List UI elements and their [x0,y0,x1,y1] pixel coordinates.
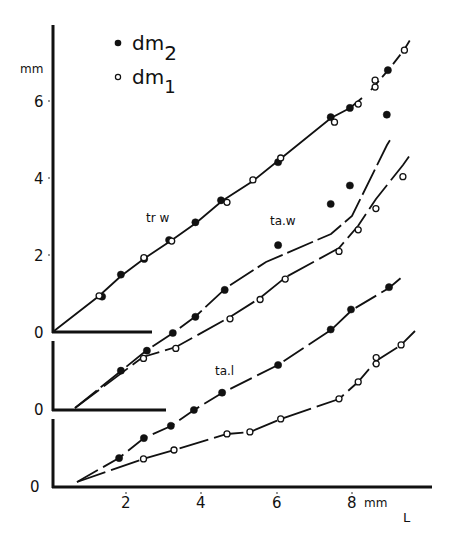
y-unit-label: mm [20,62,43,76]
data-point-ta-l-dm2 [140,435,147,442]
fit-line-ta-l-dm1 [77,331,415,482]
data-point-ta-l-dm2 [327,326,334,333]
data-point-ta-l-dm2 [275,361,282,368]
data-point-ta-w-dm1 [282,276,288,282]
data-point-ta-l-dm1 [373,361,379,367]
tick-labels: mm 6 4 2 0 0 0 2 4 6 8 mm L [20,62,411,525]
legend-dm1-label: dm1 [132,65,176,97]
data-point-tr-w-dm1 [278,155,284,161]
data-point-ta-w-dm2 [221,286,228,293]
y-tick-2: 2 [34,247,44,265]
x-axis-name: L [403,510,411,525]
x-tick-8: 8 [347,494,357,512]
x-tick-4: 4 [196,494,206,512]
data-point-ta-l-dm2 [116,455,123,462]
data-point-ta-l-dm1 [247,429,253,435]
data-point-ta-w-dm2 [346,182,353,189]
fit-line-ta-w-dm1 [75,155,410,408]
panel-label-ta-l: ta.l [215,364,234,378]
y-tick-0-bot: 0 [30,478,40,496]
legend: dm2 dm1 [115,31,177,97]
data-point-ta-l-dm1 [398,342,404,348]
ticks [48,100,353,494]
data-point-tr-w-dm1 [332,119,338,125]
data-point-ta-w-dm1 [173,345,179,351]
data-point-tr-w-dm1 [372,77,378,83]
data-point-ta-w-dm1 [257,297,263,303]
data-point-ta-l-dm2 [219,389,226,396]
x-tick-6: 6 [272,494,282,512]
data-point-ta-l-dm2 [190,406,197,413]
data-point-ta-w-dm2 [143,347,150,354]
legend-open-marker-icon [115,74,120,79]
data-point-ta-w-dm2 [275,242,282,249]
data-point-tr-w-dm2 [117,271,124,278]
data-point-ta-w-dm1 [355,227,361,233]
legend-dm2-label: dm2 [132,31,177,65]
data-point-tr-w-dm2 [346,104,353,111]
data-point-ta-l-dm2 [347,306,354,313]
data-markers [96,47,407,462]
data-point-ta-l-dm2 [385,284,392,291]
data-point-ta-w-dm2 [192,313,199,320]
panel-label-tr-w: tr w [146,211,169,225]
y-tick-0-top: 0 [34,324,44,342]
data-point-tr-w-dm1 [372,84,378,90]
data-point-ta-l-dm1 [336,396,342,402]
data-point-ta-l-dm1 [355,379,361,385]
y-tick-4: 4 [34,170,44,188]
data-point-ta-l-dm2 [167,422,174,429]
data-point-ta-w-dm2 [169,329,176,336]
data-point-tr-w-dm2 [384,67,391,74]
data-point-tr-w-dm1 [224,199,230,205]
panel-label-ta-w: ta.w [270,214,296,228]
data-point-ta-w-dm2 [383,111,390,118]
data-point-ta-l-dm1 [171,447,177,453]
data-point-tr-w-dm1 [250,177,256,183]
data-point-tr-w-dm1 [169,238,175,244]
data-point-ta-w-dm1 [400,174,406,180]
data-point-tr-w-dm1 [401,47,407,53]
data-point-ta-w-dm2 [327,200,334,207]
x-tick-2: 2 [121,494,131,512]
data-point-ta-w-dm1 [141,355,147,361]
y-tick-6: 6 [34,93,44,111]
data-point-ta-w-dm1 [227,316,233,322]
data-point-tr-w-dm1 [355,101,361,107]
data-point-ta-w-dm2 [117,367,124,374]
data-point-ta-l-dm1 [278,416,284,422]
y-tick-0-mid: 0 [34,401,44,419]
data-point-ta-l-dm1 [224,431,230,437]
data-point-tr-w-dm2 [192,219,199,226]
data-point-ta-w-dm1 [373,206,379,212]
chart-canvas: dm2 dm1 mm 6 4 2 0 0 0 2 4 6 8 mm [0,0,449,546]
data-point-tr-w-dm1 [96,293,102,299]
x-unit-label: mm [364,496,387,510]
data-point-ta-l-dm1 [373,355,379,361]
legend-filled-marker-icon [115,40,122,47]
data-point-ta-l-dm1 [141,456,147,462]
axes [52,25,432,488]
data-point-tr-w-dm1 [141,255,147,261]
data-point-ta-w-dm1 [336,248,342,254]
